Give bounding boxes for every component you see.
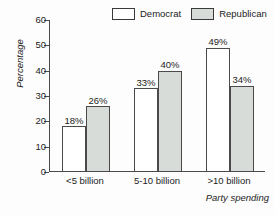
bar-value-label: 18% — [64, 116, 83, 126]
bar-value-label: 40% — [160, 60, 179, 70]
x-axis-title: Party spending — [206, 192, 269, 203]
bar-value-label: 34% — [232, 75, 251, 85]
bar-value-label: 26% — [88, 96, 107, 106]
legend-label-democrat: Democrat — [140, 9, 181, 19]
chart-legend: Democrat Republican — [112, 8, 267, 20]
y-tick-label: 60 — [35, 15, 46, 25]
y-tick-label: 30 — [35, 91, 46, 101]
y-axis-title: Percentage — [14, 29, 25, 99]
y-tick-label: 20 — [35, 117, 46, 127]
x-category-label: >10 billion — [207, 176, 250, 186]
bar-value-label: 33% — [136, 78, 155, 88]
bar-democrat-3: 49% — [206, 48, 230, 172]
bar-republican-1: 26% — [86, 106, 110, 172]
y-tick-label: 40 — [35, 66, 46, 76]
legend-item-republican: Republican — [191, 8, 267, 20]
legend-label-republican: Republican — [219, 9, 267, 19]
legend-item-democrat: Democrat — [112, 8, 181, 20]
bar-republican-3: 34% — [230, 86, 254, 172]
y-axis-line — [49, 20, 50, 172]
bar-democrat-1: 18% — [62, 126, 86, 172]
bar-chart: Democrat Republican Percentage 010203040… — [0, 0, 275, 215]
plot-area: 0102030405060 18%26%<5 billion33%40%5-10… — [49, 20, 265, 172]
x-category-label: <5 billion — [66, 176, 104, 186]
bar-democrat-2: 33% — [134, 88, 158, 172]
bar-republican-2: 40% — [158, 71, 182, 172]
y-tick-label: 0 — [41, 167, 46, 177]
legend-swatch-democrat — [112, 8, 135, 20]
x-category-label: 5-10 billion — [134, 176, 180, 186]
y-tick-label: 50 — [35, 41, 46, 51]
legend-swatch-republican — [191, 8, 214, 20]
y-tick-label: 10 — [35, 142, 46, 152]
bar-value-label: 49% — [208, 37, 227, 47]
